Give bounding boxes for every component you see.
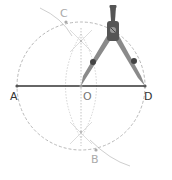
- label-a: A: [10, 90, 18, 103]
- point-bottom-intersection: [80, 131, 82, 133]
- label-c: C: [60, 7, 68, 20]
- point-b: [94, 148, 97, 151]
- label-o: O: [83, 90, 92, 103]
- label-d: D: [144, 90, 152, 103]
- label-b: B: [91, 153, 99, 166]
- point-c: [64, 20, 67, 23]
- point-top-intersection: [80, 40, 82, 42]
- compass-icon: [81, 5, 145, 86]
- point-a: [15, 84, 18, 87]
- geometry-figure: A O D C B: [0, 0, 172, 180]
